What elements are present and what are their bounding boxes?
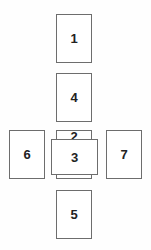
card-1-label: 1 (70, 31, 77, 46)
card-3-label: 3 (71, 150, 78, 165)
card-5: 5 (56, 190, 92, 239)
card-5-label: 5 (70, 207, 77, 222)
card-3: 3 (51, 139, 98, 175)
card-7-label: 7 (120, 147, 127, 162)
card-6: 6 (9, 130, 45, 179)
card-4-label: 4 (70, 90, 77, 105)
card-7: 7 (106, 130, 142, 179)
card-1: 1 (56, 14, 92, 63)
card-6-label: 6 (23, 147, 30, 162)
card-4: 4 (56, 73, 92, 122)
